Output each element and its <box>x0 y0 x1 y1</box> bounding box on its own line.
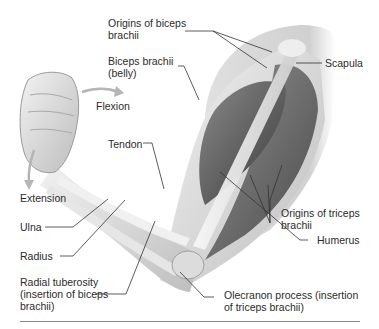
leader-biceps-belly <box>178 66 199 100</box>
label-line: brachii) <box>20 300 108 312</box>
label-flexion: Flexion <box>96 100 130 112</box>
label-biceps-belly: Biceps brachii (belly) <box>108 55 173 79</box>
label-line: Ulna <box>20 221 42 233</box>
label-line: Radius <box>20 250 53 262</box>
label-extension: Extension <box>20 192 66 204</box>
label-line: Biceps brachii <box>108 55 173 67</box>
flexion-arrow <box>82 86 124 97</box>
label-ulna: Ulna <box>20 221 42 233</box>
label-line: of triceps brachii) <box>224 301 358 313</box>
label-line: (insertion of biceps <box>20 288 108 300</box>
bottom-divider <box>20 321 360 322</box>
humeral-head <box>278 39 306 57</box>
label-origins-of-triceps: Origins of triceps brachii <box>281 207 360 231</box>
label-line: (belly) <box>108 67 173 79</box>
label-line: Tendon <box>108 138 142 150</box>
label-line: brachii <box>108 29 186 41</box>
label-tendon: Tendon <box>108 138 142 150</box>
label-radius: Radius <box>20 250 53 262</box>
fist <box>20 72 79 172</box>
label-olecranon-process: Olecranon process (insertion of triceps … <box>224 289 358 313</box>
label-humerus: Humerus <box>317 234 360 246</box>
label-line: Origins of biceps <box>108 17 186 29</box>
label-origins-of-biceps: Origins of biceps brachii <box>108 17 186 41</box>
label-line: Olecranon process (insertion <box>224 289 358 301</box>
label-line: Radial tuberosity <box>20 276 108 288</box>
label-line: brachii <box>281 219 360 231</box>
label-radial-tuberosity: Radial tuberosity (insertion of biceps b… <box>20 276 108 312</box>
label-scapula: Scapula <box>325 57 363 69</box>
label-line: Humerus <box>317 234 360 246</box>
leader-tendon <box>143 143 164 189</box>
label-line: Scapula <box>325 57 363 69</box>
label-line: Origins of triceps <box>281 207 360 219</box>
olecranon-process <box>172 251 204 279</box>
